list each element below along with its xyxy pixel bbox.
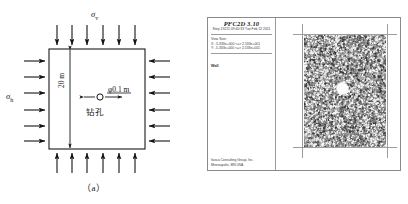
figure-root: σv σh φ0.1 m 钻孔 20 m （a） PFC2D 3.10 Step…	[0, 0, 408, 204]
pfc2d-viewport	[276, 18, 400, 170]
hole-diameter-label: φ0.1 m	[108, 85, 129, 94]
panel-b-simulation: PFC2D 3.10 Step 19221 09:40:33 Tue Feb 2…	[204, 0, 408, 204]
stress-horizontal-label: σh	[6, 91, 13, 103]
wall-line-left	[302, 24, 303, 158]
pfc2d-view-size-block: View Size: X: -5.333e+000 <=> 2.533e+001…	[211, 37, 272, 51]
caption-panel-a: （a）	[82, 181, 106, 194]
stress-arrows-right	[149, 61, 170, 141]
footer-company: Itasca Consulting Group, Inc.	[211, 158, 254, 162]
particle-assembly	[304, 35, 386, 147]
pfc2d-step-line: Step 19221 09:40:33 Tue Feb 22 2011	[211, 27, 272, 32]
pfc2d-info-sidebar: PFC2D 3.10 Step 19221 09:40:33 Tue Feb 2…	[208, 18, 276, 170]
view-size-header: View Size:	[211, 37, 272, 42]
sidebar-divider-bottom	[211, 53, 272, 54]
height-dimension-label: 20 m	[57, 73, 66, 88]
stress-vertical-label: σv	[91, 9, 98, 21]
pfc2d-legend-wall: Wall	[211, 64, 272, 68]
panel-a-schematic: σv σh φ0.1 m 钻孔 20 m （a）	[0, 0, 204, 204]
stress-arrows-left	[24, 61, 45, 141]
pfc2d-footer: Itasca Consulting Group, Inc. Minneapoli…	[211, 158, 254, 167]
specimen-outline	[49, 49, 145, 149]
sidebar-divider-top	[211, 34, 272, 35]
stress-arrows-top	[57, 25, 135, 45]
wall-line-right	[387, 24, 388, 158]
view-size-y: Y: -5.333e+000 <=> 2.533e+001	[211, 46, 272, 51]
stress-arrows-bottom	[57, 153, 135, 173]
pfc2d-window: PFC2D 3.10 Step 19221 09:40:33 Tue Feb 2…	[207, 17, 401, 171]
wall-line-bottom	[293, 147, 397, 148]
schematic-drawing	[0, 0, 204, 204]
borehole-circle	[97, 94, 103, 100]
footer-location: Minneapolis, MN USA	[211, 163, 254, 167]
borehole-name-label: 钻孔	[86, 105, 104, 117]
